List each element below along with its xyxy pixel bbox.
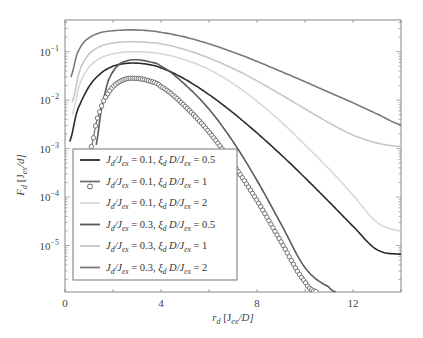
y-tick-label: 10−2 — [39, 92, 59, 106]
legend-marker — [88, 184, 93, 189]
series-line — [71, 30, 401, 125]
y-tick-label: 10−1 — [39, 44, 59, 58]
legend: Jd/Jex = 0.1, ξd D/Jex = 0.5Jd/Jex = 0.1… — [73, 149, 237, 280]
chart: 04812 10−110−210−310−410−5 rd [Jex/D] Fd… — [0, 0, 423, 338]
x-tick-label: 0 — [62, 297, 68, 309]
y-tick-label: 10−3 — [39, 141, 59, 155]
circle-marker — [99, 104, 103, 108]
circle-marker — [93, 124, 97, 128]
circle-marker — [89, 144, 93, 148]
x-tick-label: 4 — [158, 297, 164, 309]
x-axis-label: rd [Jex/D] — [212, 311, 253, 326]
legend-box — [73, 149, 237, 280]
circle-marker — [97, 110, 101, 114]
y-tick-labels: 10−110−210−310−410−5 — [39, 44, 59, 252]
circle-marker — [95, 116, 99, 120]
x-tick-labels: 04812 — [62, 297, 358, 309]
x-tick-label: 12 — [348, 297, 359, 309]
y-tick-label: 10−5 — [39, 238, 59, 252]
series-line — [72, 42, 401, 147]
y-tick-label: 10−4 — [39, 189, 59, 203]
circle-marker — [314, 289, 318, 293]
circle-marker — [91, 136, 95, 140]
x-tick-label: 8 — [254, 297, 260, 309]
y-axis-label: Fd [Jex/d] — [14, 154, 29, 196]
